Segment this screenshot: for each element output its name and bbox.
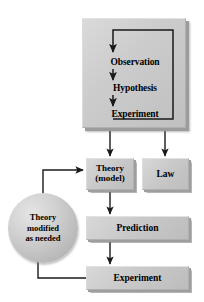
theory-model-node: Theory (model) [86, 158, 134, 190]
cycle-step-hypothesis: Hypothesis [83, 83, 187, 93]
cycle-panel: Observation Hypothesis Experiment [82, 18, 186, 128]
cycle-step-observation: Observation [83, 57, 187, 67]
edge-experiment-step-to-observation-step [113, 30, 173, 119]
theory-label-line2: (model) [95, 174, 125, 184]
modified-label-line1: Theory [30, 212, 56, 222]
law-node: Law [142, 158, 189, 190]
modified-label-line2: modified [27, 223, 59, 233]
theory-modified-circle: Theory modified as needed [8, 193, 78, 263]
experiment-node: Experiment [86, 266, 189, 290]
edge-modified-to-theory [43, 170, 83, 196]
scientific-method-diagram: Observation Hypothesis Experiment Theory… [0, 0, 204, 302]
law-label: Law [157, 169, 175, 179]
experiment-label: Experiment [113, 273, 161, 283]
modified-label-line3: as needed [25, 233, 60, 243]
prediction-label: Prediction [116, 223, 158, 233]
cycle-step-experiment: Experiment [83, 109, 187, 119]
prediction-node: Prediction [86, 216, 189, 240]
